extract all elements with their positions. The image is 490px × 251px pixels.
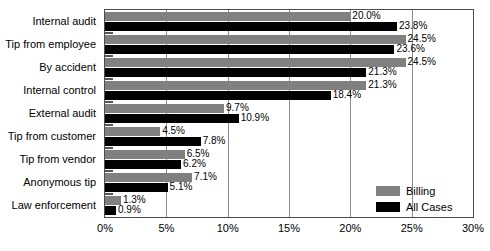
legend-item-billing: Billing (376, 184, 468, 197)
bar-billing (105, 127, 160, 136)
y-axis-label: External audit (29, 107, 96, 119)
bar-value-label: 21.3% (368, 80, 396, 90)
bar-all-cases (105, 45, 394, 54)
bar-value-label: 23.6% (396, 44, 424, 54)
bar-value-label: 7.8% (203, 136, 226, 146)
x-axis-tick-label: 20% (339, 222, 361, 235)
bar-all-cases (105, 114, 239, 123)
bar-value-label: 23.8% (399, 21, 427, 31)
y-axis-label: Internal audit (32, 15, 96, 27)
y-axis-label: Tip from customer (8, 130, 96, 142)
bar-value-label: 18.4% (333, 90, 361, 100)
x-axis-tick-label: 15% (278, 222, 300, 235)
y-axis-label: Internal control (23, 84, 96, 96)
x-axis-tick-label: 30% (462, 222, 484, 235)
bar-value-label: 10.9% (241, 113, 269, 123)
bar-all-cases (105, 137, 201, 146)
bar-value-label: 6.2% (183, 159, 206, 169)
legend-swatch-all-cases (376, 202, 400, 212)
bar-all-cases (105, 206, 116, 215)
bar-chart: Internal auditTip from employeeBy accide… (0, 0, 490, 251)
bar-billing (105, 150, 185, 159)
bar-value-label: 7.1% (194, 172, 217, 182)
bar-billing (105, 81, 366, 90)
bar-billing (105, 58, 406, 67)
bar-billing (105, 12, 350, 21)
bar-all-cases (105, 22, 397, 31)
y-axis-label: Anonymous tip (23, 176, 96, 188)
y-axis-label: Tip from employee (5, 38, 96, 50)
legend-swatch-billing (376, 186, 400, 196)
y-axis-label: Tip from vendor (19, 153, 96, 165)
bar-value-label: 20.0% (352, 11, 380, 21)
x-axis-tick-label: 10% (217, 222, 239, 235)
legend-item-all-cases: All Cases (376, 200, 468, 213)
x-axis-tick-labels: 0%5%10%15%20%25%30% (104, 222, 474, 240)
x-axis-tick-label: 25% (401, 222, 423, 235)
x-axis-tick-label: 0% (97, 222, 113, 235)
bar-all-cases (105, 160, 181, 169)
bar-value-label: 0.9% (118, 205, 141, 215)
bar-all-cases (105, 68, 366, 77)
bar-value-label: 21.3% (368, 67, 396, 77)
legend-label-billing: Billing (406, 185, 435, 197)
bar-billing (105, 35, 406, 44)
bar-value-label: 5.1% (170, 182, 193, 192)
x-axis-tick-label: 5% (158, 222, 174, 235)
bar-all-cases (105, 183, 168, 192)
bar-billing (105, 104, 224, 113)
legend-label-all-cases: All Cases (406, 201, 452, 213)
chart-legend: Billing All Cases (376, 184, 468, 216)
y-axis-label: Law enforcement (12, 199, 96, 211)
bar-value-label: 24.5% (408, 57, 436, 67)
y-axis-category-labels: Internal auditTip from employeeBy accide… (0, 9, 100, 218)
bar-value-label: 4.5% (162, 126, 185, 136)
bar-all-cases (105, 91, 331, 100)
y-axis-label: By accident (39, 61, 96, 73)
